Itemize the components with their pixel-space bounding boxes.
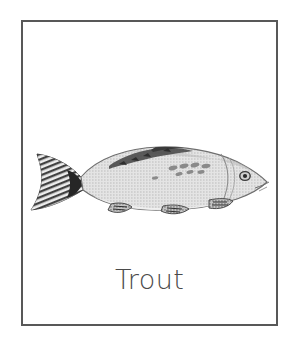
anal-fin [108,203,132,212]
flashcard: Trout [0,0,298,351]
pectoral-fin [209,199,233,209]
fish-illustration [23,122,276,227]
fish-eye [240,172,250,181]
card-label: Trout [23,266,276,293]
pelvic-fin [161,205,189,214]
card-frame: Trout [21,20,278,326]
tail-fin [27,150,87,214]
